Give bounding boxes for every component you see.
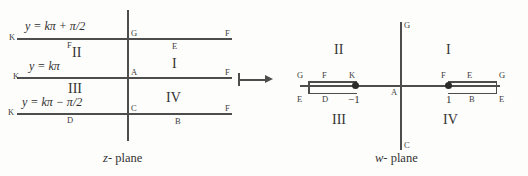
w-plane-caption: w- plane — [375, 152, 418, 165]
w-plane-label-G-left-upper: G — [297, 71, 303, 80]
z-plane-region-III: III — [68, 82, 82, 96]
w-plane-label-K-left-upper: K — [349, 71, 355, 80]
conformal-mapping-figure: y = kπ + π/2 K F G F E y = kπ K A F y = … — [0, 0, 528, 176]
w-plane-quadrant-IV: IV — [443, 113, 458, 127]
equation-upper-rhs: kπ + π/2 — [44, 19, 85, 33]
w-plane-quadrant-II: II — [334, 43, 343, 57]
z-plane-label-C-axis: C — [131, 104, 137, 113]
w-plane-label-F-left-upper: F — [322, 71, 327, 80]
equation-middle-lhs: y = — [29, 59, 45, 73]
equation-lower-lhs: y = — [22, 95, 38, 109]
z-plane-line-lower-right — [129, 113, 232, 115]
w-plane-left-cut-upper — [308, 81, 357, 83]
maps-to-shaft — [239, 79, 267, 81]
z-plane-caption: z- plane — [103, 152, 142, 165]
w-plane-label-one: 1 — [446, 94, 452, 105]
maps-to-arrow-icon — [238, 73, 274, 87]
z-plane-label-G-axis: G — [131, 29, 137, 38]
z-plane-label-D-under-lower: D — [67, 116, 73, 125]
w-plane-quadrant-III: III — [332, 113, 346, 127]
w-plane-label-B-right-lower: B — [469, 95, 475, 104]
w-plane-label-D-left-lower: D — [322, 95, 328, 104]
w-plane-label-G-top: G — [404, 21, 410, 30]
w-plane-horizontal-axis — [300, 85, 500, 87]
z-plane-label-F-upper-right: F — [225, 29, 230, 38]
w-plane-label-C-bottom: C — [404, 141, 410, 150]
z-plane-line-middle-left — [17, 77, 127, 79]
w-plane-quadrant-I: I — [446, 43, 451, 57]
w-plane-right-cut-upper — [448, 81, 497, 83]
w-plane-branch-point-one — [445, 82, 452, 89]
z-plane-equation-lower: y = kπ − π/2 — [22, 96, 82, 108]
z-plane-label-K-upper: K — [9, 33, 15, 42]
z-plane-label-B-under-lower-right: B — [175, 117, 181, 126]
w-plane-label-A-origin: A — [391, 88, 397, 97]
z-plane-line-middle-right — [129, 77, 232, 79]
z-plane-label-F-lower-right: F — [225, 104, 230, 113]
z-plane-label-K-middle: K — [13, 72, 19, 81]
z-plane-line-upper-left — [17, 38, 127, 40]
equation-upper-lhs: y = — [25, 19, 41, 33]
w-plane-branch-point-minus-one — [352, 82, 359, 89]
z-plane-vertical-axis — [127, 10, 129, 141]
w-plane-label-minus-one: −1 — [348, 94, 360, 105]
equation-middle-rhs: kπ — [48, 59, 59, 73]
z-plane-region-I: I — [172, 57, 177, 71]
z-plane-region-IV: IV — [166, 91, 181, 105]
w-plane-label-E-right-upper: E — [467, 71, 472, 80]
w-plane-label-E-left-lower: E — [297, 95, 302, 104]
maps-to-head — [265, 75, 273, 83]
z-plane-equation-upper: y = kπ + π/2 — [25, 20, 85, 32]
equation-lower-rhs: kπ − π/2 — [41, 95, 82, 109]
z-plane-label-E-under-upper-right: E — [172, 42, 177, 51]
w-plane-label-E-right-lower: E — [499, 95, 504, 104]
z-plane-label-F-middle-right: F — [225, 68, 230, 77]
z-plane-label-K-lower: K — [8, 108, 14, 117]
z-plane-caption-rest: - plane — [108, 151, 142, 165]
w-plane-caption-rest: - plane — [383, 151, 417, 165]
w-plane-label-F-right-upper: F — [441, 71, 446, 80]
z-plane-line-upper-right — [129, 38, 232, 40]
z-plane-region-II: II — [72, 46, 81, 60]
w-plane-label-G-right-upper: G — [499, 71, 505, 80]
z-plane-equation-middle: y = kπ — [29, 60, 60, 72]
z-plane-label-A-axis: A — [131, 68, 137, 77]
